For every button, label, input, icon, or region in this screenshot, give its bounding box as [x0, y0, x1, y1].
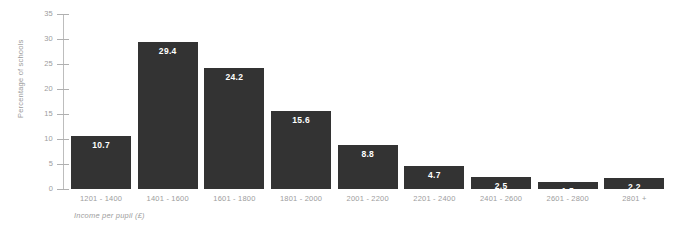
bar[interactable]: 10.7	[71, 136, 131, 190]
bar-group[interactable]: 24.21601 - 1800	[204, 14, 264, 189]
bar-group[interactable]: 4.72201 - 2400	[404, 14, 464, 189]
x-axis-category-label: 1801 - 2000	[263, 194, 339, 203]
bar[interactable]: 1.5	[538, 182, 598, 190]
y-axis-tick	[57, 189, 69, 190]
plot-area: 10.71201 - 140029.41401 - 160024.21601 -…	[71, 14, 671, 189]
bar-group[interactable]: 29.41401 - 1600	[138, 14, 198, 189]
y-axis-tick-label: 15	[31, 109, 53, 118]
x-axis-category-label: 2001 - 2200	[330, 194, 406, 203]
bar-group[interactable]: 2.52401 - 2600	[471, 14, 531, 189]
y-axis-tick-label: 35	[31, 9, 53, 18]
y-axis-tick	[57, 39, 69, 40]
bar-value-label: 24.2	[204, 72, 264, 82]
bar-value-label: 4.7	[404, 170, 464, 180]
x-axis-category-label: 1201 - 1400	[63, 194, 139, 203]
bar[interactable]: 8.8	[338, 145, 398, 189]
bar-value-label: 2.2	[604, 182, 664, 192]
y-axis-tick-label: 5	[31, 159, 53, 168]
bar-group[interactable]: 1.52601 - 2800	[538, 14, 598, 189]
x-axis-category-label: 2801 +	[596, 194, 672, 203]
bar[interactable]: 24.2	[204, 68, 264, 189]
bar-value-label: 15.6	[271, 115, 331, 125]
bar[interactable]: 2.5	[471, 177, 531, 190]
x-axis-category-label: 2201 - 2400	[396, 194, 472, 203]
bar[interactable]: 2.2	[604, 178, 664, 189]
y-axis-tick	[57, 114, 69, 115]
y-axis-tick	[57, 64, 69, 65]
bar-chart: Percentage of schools 05101520253035 10.…	[0, 0, 697, 233]
y-axis-line	[63, 14, 64, 189]
bar-group[interactable]: 8.82001 - 2200	[338, 14, 398, 189]
bar[interactable]: 4.7	[404, 166, 464, 190]
y-axis-tick-label: 10	[31, 134, 53, 143]
y-axis-tick	[57, 14, 69, 15]
y-axis-tick	[57, 164, 69, 165]
bar-group[interactable]: 2.22801 +	[604, 14, 664, 189]
bar[interactable]: 15.6	[271, 111, 331, 189]
bar-group[interactable]: 10.71201 - 1400	[71, 14, 131, 189]
bar-group[interactable]: 15.61801 - 2000	[271, 14, 331, 189]
x-axis-category-label: 2601 - 2800	[530, 194, 606, 203]
bar-value-label: 2.5	[471, 181, 531, 191]
y-axis-tick-label: 25	[31, 59, 53, 68]
y-axis-tick-label: 0	[31, 184, 53, 193]
bar-value-label: 29.4	[138, 46, 198, 56]
x-axis-title: Income per pupil (£)	[74, 211, 145, 220]
bar-value-label: 8.8	[338, 149, 398, 159]
y-axis-tick	[57, 139, 69, 140]
y-axis-tick-label: 20	[31, 84, 53, 93]
x-axis-category-label: 1401 - 1600	[130, 194, 206, 203]
y-axis-title: Percentage of schools	[16, 8, 25, 118]
x-axis-category-label: 1601 - 1800	[196, 194, 272, 203]
y-axis-tick-label: 30	[31, 34, 53, 43]
bar-value-label: 10.7	[71, 140, 131, 150]
y-axis-tick	[57, 89, 69, 90]
bar[interactable]: 29.4	[138, 42, 198, 189]
x-axis-category-label: 2401 - 2600	[463, 194, 539, 203]
